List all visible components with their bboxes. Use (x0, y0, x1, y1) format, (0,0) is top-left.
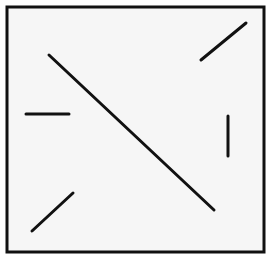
diagram-frame (7, 7, 264, 252)
line-diagram (0, 0, 273, 266)
